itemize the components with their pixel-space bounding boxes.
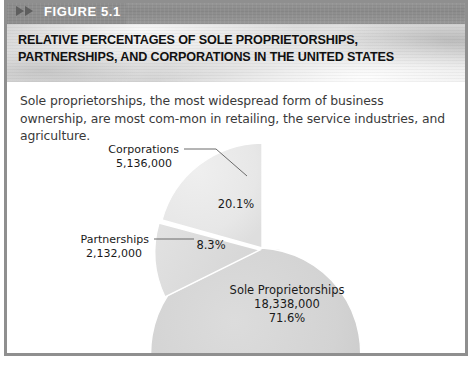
pie-label-sole-name: Sole Proprietorships (230, 283, 345, 297)
callout-partnerships-count: 2,132,000 (86, 247, 142, 260)
pie-chart-svg: 20.1% Sole Proprietorships 18,338,000 71… (4, 82, 468, 356)
pie-chart: 20.1% Sole Proprietorships 18,338,000 71… (4, 82, 468, 356)
figure-container: FIGURE 5.1 RELATIVE PERCENTAGES OF SOLE … (0, 0, 472, 369)
figure-title-band: RELATIVE PERCENTAGES OF SOLE PROPRIETORS… (4, 24, 468, 82)
figure-number-label: FIGURE 5.1 (44, 4, 121, 19)
pie-label-partnerships-percent: 8.3% (196, 238, 225, 252)
pie-label-sole-percent: 71.6% (269, 311, 306, 325)
chevron-right-icon-1 (16, 6, 24, 16)
figure-header-bar: FIGURE 5.1 (4, 0, 468, 24)
figure-title: RELATIVE PERCENTAGES OF SOLE PROPRIETORS… (18, 31, 432, 65)
double-chevron-right-icon (16, 6, 33, 16)
callout-corporations-count: 5,136,000 (116, 157, 172, 170)
callout-partnerships-name: Partnerships (81, 233, 150, 246)
pie-label-sole-count: 18,338,000 (254, 297, 320, 311)
pie-label-corporations-percent: 20.1% (218, 197, 255, 211)
figure-header-bar-right-block (126, 0, 468, 24)
callout-corporations-name: Corporations (108, 143, 179, 156)
chevron-right-icon-2 (25, 6, 33, 16)
